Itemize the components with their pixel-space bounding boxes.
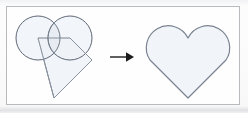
heart-shape (146, 26, 229, 98)
arrow-head-icon (126, 52, 134, 62)
result-figure (144, 12, 232, 102)
transformation-arrow (108, 48, 136, 66)
construction-figure (14, 12, 106, 102)
screenshot-root (0, 0, 248, 113)
scan-edge-bottom (0, 106, 248, 113)
